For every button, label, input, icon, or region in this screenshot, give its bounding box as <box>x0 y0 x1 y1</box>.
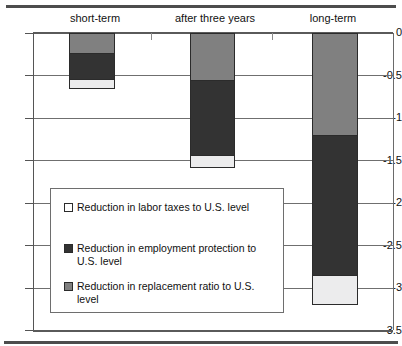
bar-segment-employment-protection-after-three-years <box>190 80 235 156</box>
y-tick-mark-neg2 <box>25 203 33 204</box>
figure-bottom-rule <box>4 341 398 344</box>
category-header-row: short-term after three years long-term <box>33 10 392 28</box>
bar-after-three-years[interactable] <box>190 33 235 168</box>
bar-segment-replacement-ratio-long-term <box>312 33 358 136</box>
bar-segment-employment-protection-short-term <box>69 53 115 80</box>
bottom-axis-line <box>33 330 393 332</box>
y-tick-mark-neg2-5 <box>25 245 33 246</box>
legend-label-labor-taxes: Reduction in labor taxes to U.S. level <box>77 201 249 214</box>
bar-short-term[interactable] <box>69 33 115 89</box>
category-header-long-term: long-term <box>274 10 392 26</box>
category-header-after-three-years: after three years <box>153 10 277 26</box>
chart-legend: Reduction in labor taxes to U.S. level R… <box>50 188 284 313</box>
bar-segment-replacement-ratio-short-term <box>69 33 115 54</box>
legend-label-employment-protection: Reduction in employment protection to U.… <box>77 242 276 267</box>
bar-segment-labor-taxes-long-term <box>312 275 358 305</box>
bar-segment-replacement-ratio-after-three-years <box>190 33 235 81</box>
dark-swatch-icon <box>64 244 73 253</box>
gray-swatch-icon <box>64 282 73 291</box>
y-tick-mark-neg3 <box>25 288 33 289</box>
legend-item-replacement-ratio[interactable]: Reduction in replacement ratio to U.S. l… <box>64 280 276 305</box>
y-tick-mark-neg1 <box>25 118 33 119</box>
category-header-short-term: short-term <box>33 10 157 26</box>
x-tick-sep-1 <box>151 33 152 40</box>
y-tick-mark-neg0-5 <box>25 75 33 76</box>
y-tick-mark-neg1-5 <box>25 160 33 161</box>
y-tick-mark-0 <box>25 33 33 34</box>
legend-item-labor-taxes[interactable]: Reduction in labor taxes to U.S. level <box>64 201 276 214</box>
figure-top-rule <box>6 5 396 8</box>
legend-item-employment-protection[interactable]: Reduction in employment protection to U.… <box>64 242 276 267</box>
bar-segment-labor-taxes-after-three-years <box>190 155 235 168</box>
x-tick-sep-2 <box>272 33 273 40</box>
y-tick-mark-neg3-5 <box>25 330 33 331</box>
stacked-bar-chart-figure: short-term after three years long-term 0… <box>0 0 402 346</box>
white-swatch-icon <box>64 203 73 212</box>
legend-label-replacement-ratio: Reduction in replacement ratio to U.S. l… <box>77 280 276 305</box>
bar-long-term[interactable] <box>312 33 358 305</box>
bar-segment-employment-protection-long-term <box>312 135 358 276</box>
bar-segment-labor-taxes-short-term <box>69 79 115 89</box>
